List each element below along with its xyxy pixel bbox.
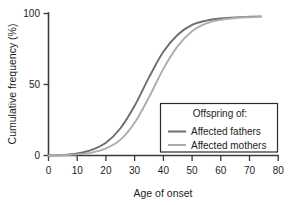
x-tick-label-40: 40 bbox=[158, 165, 170, 176]
y-tick-label-0: 0 bbox=[34, 150, 40, 161]
x-tick-label-50: 50 bbox=[187, 165, 199, 176]
chart-figure: 100 50 0 0 10 20 30 40 50 60 70 80 Age bbox=[0, 0, 291, 205]
cumulative-frequency-line-chart: 100 50 0 0 10 20 30 40 50 60 70 80 Age bbox=[0, 0, 291, 205]
legend-title: Offspring of: bbox=[193, 108, 247, 119]
x-axis-title: Age of onset bbox=[134, 187, 193, 199]
x-tick-label-70: 70 bbox=[244, 165, 256, 176]
legend-label-affected-mothers: Affected mothers bbox=[191, 140, 266, 151]
x-tick-label-60: 60 bbox=[215, 165, 227, 176]
x-tick-label-0: 0 bbox=[46, 165, 52, 176]
legend: Offspring of: Affected fathers Affected … bbox=[161, 104, 278, 153]
x-tick-label-30: 30 bbox=[129, 165, 141, 176]
x-ticks-group: 0 10 20 30 40 50 60 70 80 bbox=[46, 156, 284, 177]
legend-label-affected-fathers: Affected fathers bbox=[191, 126, 261, 137]
y-ticks-group: 100 50 0 bbox=[23, 8, 48, 161]
x-tick-label-10: 10 bbox=[72, 165, 84, 176]
y-tick-label-50: 50 bbox=[29, 79, 41, 90]
y-tick-label-100: 100 bbox=[23, 8, 40, 19]
y-axis-title: Cumulative frequency (%) bbox=[6, 24, 18, 145]
x-tick-label-80: 80 bbox=[273, 165, 285, 176]
x-tick-label-20: 20 bbox=[100, 165, 112, 176]
